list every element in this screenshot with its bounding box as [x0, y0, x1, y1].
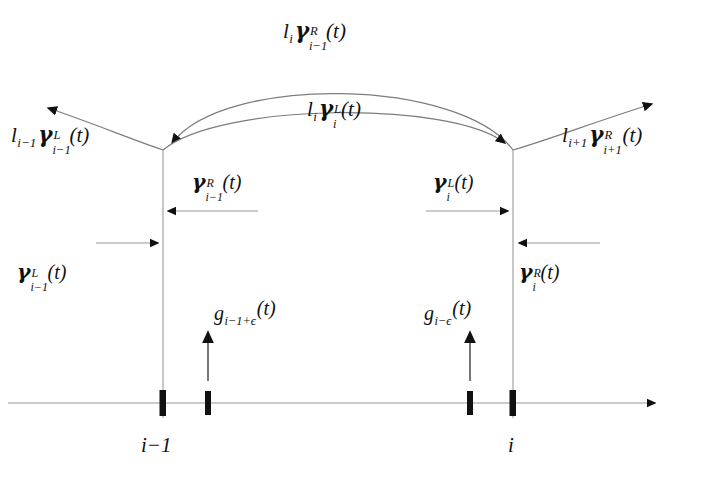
- label-g-right: gi−ϵ(t): [424, 303, 471, 323]
- label-g-left: gi−1+ϵ(t): [214, 303, 276, 323]
- tick-mark-left-inner: [205, 391, 211, 415]
- label-inner-arc: liγLi(t): [307, 98, 361, 120]
- label-dimension-inner-right: γLi(t): [433, 172, 473, 192]
- axis-tick-label-i-minus-1: i−1: [141, 435, 172, 456]
- diagram-vector-layer: [0, 0, 701, 485]
- tick-mark-i-minus-1: [160, 390, 167, 416]
- tick-mark-right-inner: [467, 391, 473, 415]
- label-dimension-inner-left: γRi−1(t): [192, 172, 241, 192]
- label-dimension-outer-left: γLi−1(t): [17, 262, 66, 282]
- tick-mark-i: [510, 390, 517, 416]
- label-left-outward-arc: li−1γLi−1(t): [11, 124, 89, 146]
- label-right-outward-arc: li+1γRi+1(t): [562, 124, 642, 146]
- axis-tick-label-i: i: [508, 435, 514, 456]
- figure-canvas: liγRi−1(t) liγLi(t) li−1γLi−1(t) li+1γRi…: [0, 0, 701, 485]
- label-outer-arc: liγRi−1(t): [283, 20, 346, 42]
- label-dimension-outer-right: γRi(t): [519, 262, 559, 282]
